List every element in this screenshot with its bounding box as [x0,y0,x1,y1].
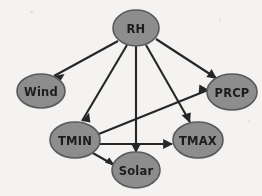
node-label-tmax: TMAX [179,134,217,148]
node-tmin[interactable]: TMIN [50,122,100,158]
edge-rh-prcp [156,39,217,79]
diagram-canvas: RH Wind PRCP TMIN TMAX Solar [0,0,262,196]
node-rh[interactable]: RH [113,10,159,46]
edge-rh-solar [131,46,141,153]
node-wind[interactable]: Wind [17,74,65,108]
causal-graph: RH Wind PRCP TMIN TMAX Solar [0,0,262,196]
node-label-tmin: TMIN [58,134,92,148]
node-tmax[interactable]: TMAX [173,122,223,158]
node-label-rh: RH [127,22,146,36]
node-label-prcp: PRCP [215,86,250,100]
node-solar[interactable]: Solar [112,152,160,188]
node-prcp[interactable]: PRCP [207,74,257,110]
node-label-solar: Solar [119,164,154,178]
node-label-wind: Wind [24,85,58,99]
edge-tmin-solar [91,152,115,166]
